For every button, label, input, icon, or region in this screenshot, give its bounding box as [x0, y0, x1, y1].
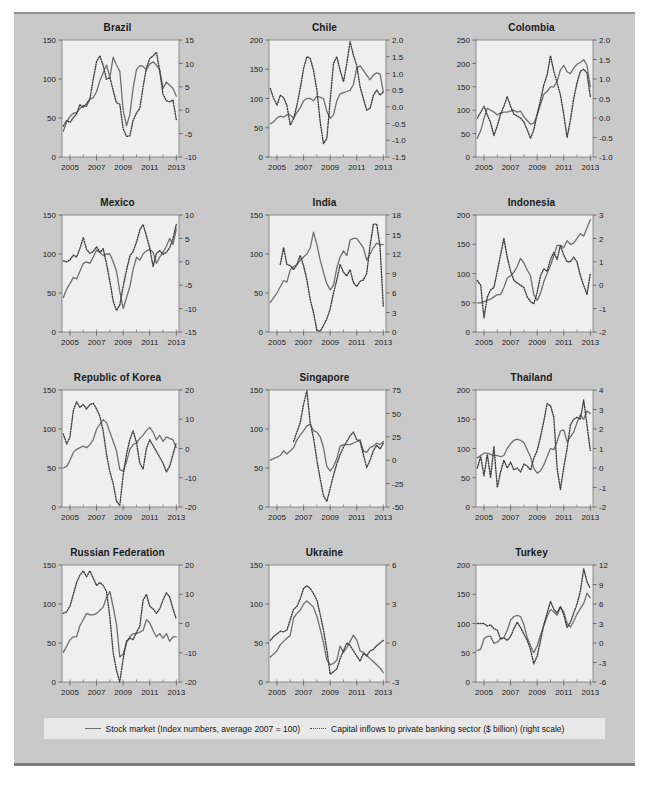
svg-text:50: 50 [254, 124, 263, 133]
svg-text:2007: 2007 [295, 513, 313, 522]
svg-text:2013: 2013 [374, 688, 392, 697]
svg-text:50: 50 [461, 299, 470, 308]
svg-text:0: 0 [52, 328, 57, 337]
chart-canvas: 050100150200250-1.0-0.50.00.51.01.52.020… [428, 14, 635, 189]
svg-text:150: 150 [457, 240, 471, 249]
svg-text:0: 0 [392, 456, 397, 465]
svg-text:-1.5: -1.5 [392, 153, 406, 162]
svg-text:2005: 2005 [475, 688, 493, 697]
svg-text:2011: 2011 [141, 163, 159, 172]
svg-text:2: 2 [599, 235, 604, 244]
svg-text:20: 20 [185, 561, 194, 570]
svg-text:3: 3 [599, 406, 604, 415]
svg-text:0: 0 [52, 678, 57, 687]
chart-panel-indonesia: Indonesia050100150200-2-1012320052007200… [428, 189, 635, 364]
svg-text:12: 12 [392, 250, 401, 259]
svg-text:18: 18 [392, 211, 401, 220]
svg-text:200: 200 [457, 211, 471, 220]
dotted-line-icon [310, 725, 326, 733]
svg-text:-10: -10 [185, 474, 197, 483]
legend-label-capital-inflows: Capital inflows to private banking secto… [331, 724, 564, 734]
svg-text:-20: -20 [185, 503, 197, 512]
svg-text:2007: 2007 [295, 163, 313, 172]
svg-text:2013: 2013 [167, 688, 185, 697]
svg-text:2013: 2013 [167, 338, 185, 347]
solid-line-icon [85, 725, 101, 733]
svg-text:-1: -1 [599, 484, 607, 493]
svg-text:2005: 2005 [61, 163, 79, 172]
svg-text:100: 100 [43, 600, 57, 609]
svg-text:0: 0 [259, 678, 264, 687]
chart-canvas: 050100150200-1.5-1.0-0.50.00.51.01.52.02… [221, 14, 428, 189]
chart-panel-chile: Chile050100150200-1.5-1.0-0.50.00.51.01.… [221, 14, 428, 189]
chart-canvas: 050100150-20-100102020052007200920112013 [14, 364, 221, 539]
svg-text:2011: 2011 [348, 513, 366, 522]
svg-text:2: 2 [599, 425, 604, 434]
svg-text:50: 50 [47, 289, 56, 298]
svg-text:2005: 2005 [475, 513, 493, 522]
svg-text:1: 1 [599, 445, 604, 454]
svg-text:9: 9 [392, 270, 397, 279]
svg-text:2005: 2005 [61, 688, 79, 697]
svg-text:150: 150 [457, 415, 471, 424]
svg-text:150: 150 [43, 211, 57, 220]
svg-text:3: 3 [599, 620, 604, 629]
svg-text:100: 100 [43, 425, 57, 434]
svg-text:10: 10 [185, 415, 194, 424]
svg-text:2013: 2013 [581, 338, 599, 347]
legend-label-stock-market: Stock market (Index numbers, average 200… [106, 724, 300, 734]
chart-canvas: 050100150-50-250255075200520072009201120… [221, 364, 428, 539]
svg-text:-1.0: -1.0 [599, 153, 613, 162]
svg-text:-10: -10 [185, 153, 197, 162]
svg-text:9: 9 [599, 581, 604, 590]
chart-panel-colombia: Colombia050100150200250-1.0-0.50.00.51.0… [428, 14, 635, 189]
chart-canvas: 050100150200-6-3036912200520072009201120… [428, 539, 635, 714]
svg-text:50: 50 [461, 649, 470, 658]
svg-text:6: 6 [599, 600, 604, 609]
svg-text:6: 6 [392, 289, 397, 298]
svg-text:-5: -5 [185, 130, 193, 139]
chart-panel-thailand: Thailand050100150200-2-10123420052007200… [428, 364, 635, 539]
svg-text:0: 0 [466, 503, 471, 512]
svg-text:150: 150 [43, 36, 57, 45]
chart-canvas: 050100150200-2-1012342005200720092011201… [428, 364, 635, 539]
svg-text:2007: 2007 [295, 338, 313, 347]
svg-text:2007: 2007 [502, 338, 520, 347]
svg-text:0: 0 [599, 281, 604, 290]
svg-text:1.0: 1.0 [599, 75, 611, 84]
svg-text:5: 5 [185, 235, 190, 244]
svg-text:0: 0 [259, 328, 264, 337]
svg-text:150: 150 [457, 83, 471, 92]
svg-text:100: 100 [250, 600, 264, 609]
svg-text:-0.5: -0.5 [392, 120, 406, 129]
svg-text:2013: 2013 [581, 163, 599, 172]
svg-text:1.5: 1.5 [392, 53, 404, 62]
svg-text:2005: 2005 [61, 338, 79, 347]
svg-text:0: 0 [185, 445, 190, 454]
svg-text:2007: 2007 [88, 513, 106, 522]
svg-text:2009: 2009 [321, 688, 339, 697]
svg-text:-5: -5 [185, 281, 193, 290]
svg-text:2007: 2007 [502, 163, 520, 172]
svg-text:15: 15 [392, 231, 401, 240]
svg-text:-10: -10 [185, 305, 197, 314]
svg-text:0: 0 [392, 639, 397, 648]
svg-text:100: 100 [457, 106, 471, 115]
svg-text:2005: 2005 [475, 163, 493, 172]
svg-text:2005: 2005 [268, 338, 286, 347]
svg-text:150: 150 [250, 561, 264, 570]
chart-canvas: 050100150-20-100102020052007200920112013 [14, 539, 221, 714]
svg-text:75: 75 [392, 386, 401, 395]
svg-text:6: 6 [392, 561, 397, 570]
svg-text:2013: 2013 [374, 513, 392, 522]
svg-text:0.0: 0.0 [392, 103, 404, 112]
svg-text:0.5: 0.5 [599, 95, 611, 104]
chart-panel-brazil: Brazil050100150-10-505101520052007200920… [14, 14, 221, 189]
svg-text:2009: 2009 [114, 688, 132, 697]
svg-text:2011: 2011 [555, 338, 573, 347]
svg-text:50: 50 [254, 464, 263, 473]
chart-panel-india: India05010015003691215182005200720092011… [221, 189, 428, 364]
svg-text:0: 0 [599, 464, 604, 473]
svg-text:-20: -20 [185, 678, 197, 687]
svg-text:2009: 2009 [528, 688, 546, 697]
